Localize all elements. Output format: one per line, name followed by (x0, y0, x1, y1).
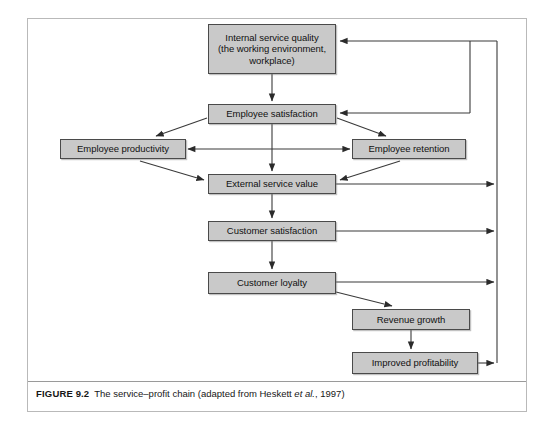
figure-caption: FIGURE 9.2 The service–profit chain (ada… (36, 388, 516, 399)
node-internal-service-quality[interactable]: Internal service quality (the working en… (208, 24, 336, 74)
node-external-service-value-label: External service value (226, 178, 318, 190)
caption-text-italic: et al. (294, 388, 315, 399)
node-internal-service-quality-label: Internal service quality (the working en… (218, 32, 326, 67)
isq-line-3: workplace) (249, 55, 294, 66)
node-revenue-growth-label: Revenue growth (377, 314, 445, 326)
edge-cloy-to-rgrowth (336, 292, 392, 306)
node-external-service-value[interactable]: External service value (208, 174, 336, 194)
node-employee-satisfaction[interactable]: Employee satisfaction (208, 104, 336, 124)
node-revenue-growth[interactable]: Revenue growth (352, 309, 470, 330)
figure-container: Internal service quality (the working en… (0, 0, 556, 432)
isq-line-1: Internal service quality (225, 32, 318, 43)
caption-text-1: The service–profit chain (adapted from H… (94, 388, 294, 399)
edge-eprod-to-esv (140, 161, 204, 180)
node-employee-productivity-label: Employee productivity (77, 143, 169, 155)
caption-figure-number: 9.2 (76, 388, 89, 399)
node-employee-satisfaction-label: Employee satisfaction (226, 108, 317, 120)
node-employee-productivity[interactable]: Employee productivity (60, 139, 186, 159)
node-customer-satisfaction-label: Customer satisfaction (227, 225, 317, 237)
caption-text-2: , 1997) (315, 388, 345, 399)
caption-figure-word: FIGURE (36, 388, 73, 399)
node-employee-retention-label: Employee retention (369, 143, 450, 155)
edge-esat-to-eret (337, 118, 386, 136)
edge-eret-to-esv (340, 161, 400, 180)
node-customer-loyalty-label: Customer loyalty (237, 277, 307, 289)
node-employee-retention[interactable]: Employee retention (352, 139, 466, 159)
edge-esat-to-eprod (156, 118, 207, 136)
node-customer-satisfaction[interactable]: Customer satisfaction (208, 221, 336, 241)
caption-divider (28, 381, 526, 382)
node-customer-loyalty[interactable]: Customer loyalty (208, 272, 336, 294)
node-improved-profitability[interactable]: Improved profitability (352, 352, 478, 374)
node-improved-profitability-label: Improved profitability (372, 357, 459, 369)
isq-line-2: (the working environment, (218, 43, 326, 54)
